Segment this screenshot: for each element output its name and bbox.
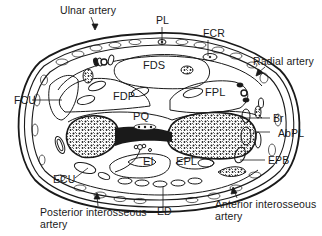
label-ulnar-artery: Ulnar artery	[60, 5, 116, 16]
label-fds: FDS	[143, 60, 165, 71]
label-posterior-interosseous-artery-line2: artery	[40, 219, 67, 230]
wrist-cross-section-diagram: Ulnar artery PL FCR Radial artery FDS FC…	[0, 0, 322, 236]
label-abpl: AbPL	[278, 128, 304, 139]
label-radial-artery: Radial artery	[253, 56, 314, 67]
label-pl: PL	[156, 15, 169, 26]
label-anterior-interosseous-artery-line2: artery	[215, 211, 242, 222]
ulnar-neurovascular-bundle	[93, 55, 115, 67]
label-fpl: FPL	[205, 87, 225, 98]
label-epb: EPB	[268, 155, 289, 166]
label-anterior-interosseous-artery-line1: Anterior interosseous	[215, 199, 316, 210]
label-ecu: ECU	[53, 174, 75, 185]
label-pq: PQ	[133, 111, 149, 122]
label-br: Br	[273, 113, 284, 124]
ulna-bone	[66, 116, 118, 158]
label-ed: ED	[157, 206, 172, 217]
label-epl: EPL	[176, 156, 197, 167]
label-fcr: FCR	[203, 28, 225, 39]
interosseous-membrane	[115, 124, 172, 146]
label-fcu: FCU	[14, 95, 36, 106]
radial-neurovascular-bundle	[237, 83, 264, 108]
label-posterior-interosseous-artery-line1: Posterior interosseous	[40, 207, 147, 218]
fcr-tendon	[181, 54, 217, 75]
label-ei: EI	[143, 156, 154, 167]
label-fdp: FDP	[113, 91, 135, 102]
